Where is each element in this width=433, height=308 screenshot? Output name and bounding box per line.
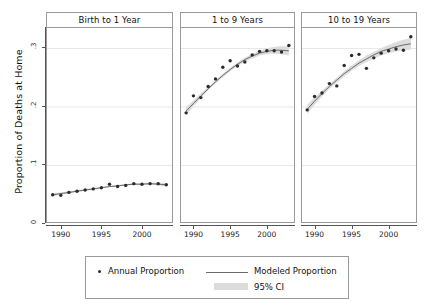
facet-panel-title: Birth to 1 Year [46,12,173,27]
facet-panel-2: 1 to 9 Years [180,12,295,223]
facet-plot-area [301,27,417,223]
x-tick-mark [230,226,231,229]
data-point [380,51,383,54]
facet-plot-area [46,27,173,223]
data-point [165,183,168,186]
data-point [184,111,187,114]
x-tick-label: 1990 [176,230,210,239]
facet-series-svg [181,28,294,222]
x-tick-mark [267,226,268,229]
data-point [124,184,127,187]
data-point [357,53,360,56]
data-point [320,91,323,94]
legend-marker-dot-icon [98,270,101,273]
x-tick-label: 1990 [298,230,332,239]
data-point [243,60,246,63]
facet-series-svg [302,28,416,222]
x-axis-spine [46,225,173,226]
data-point [199,96,202,99]
data-point [59,194,62,197]
facet-panel-title: 1 to 9 Years [180,12,295,27]
facet-panel-1: Birth to 1 Year [46,12,173,223]
data-point [265,49,268,52]
data-point [83,188,86,191]
data-point [313,95,316,98]
data-point [258,50,261,53]
data-point [387,49,390,52]
data-point [272,49,275,52]
data-point [67,191,70,194]
data-point [92,187,95,190]
data-point [335,84,338,87]
ci-band [186,46,289,115]
data-point [116,185,119,188]
data-point [132,182,135,185]
data-point [328,82,331,85]
data-point [206,85,209,88]
data-point [250,53,253,56]
y-tick-label: 0 [30,212,38,232]
x-tick-mark [101,226,102,229]
x-tick-mark [315,226,316,229]
data-point [350,54,353,57]
data-point [287,44,290,47]
x-axis-spine [180,225,295,226]
data-point [214,77,217,80]
y-tick-label: .3 [30,36,38,56]
legend-marker-band-icon [214,283,248,290]
x-tick-label: 1995 [213,230,247,239]
modeled-proportion-line [186,50,289,111]
x-axis-spine [301,225,417,226]
data-point [365,67,368,70]
data-point [100,186,103,189]
x-tick-label: 1995 [335,230,369,239]
legend-marker-line-icon [206,272,248,273]
x-tick-label: 2000 [125,230,159,239]
data-point [148,182,151,185]
x-tick-label: 1990 [44,230,78,239]
chart-figure: Proportion of Deaths at Home 0.1.2.3 Bir… [0,0,433,308]
facet-panel-3: 10 to 19 Years [301,12,417,223]
data-point [228,59,231,62]
data-point [108,183,111,186]
x-tick-label: 1995 [84,230,118,239]
x-tick-mark [142,226,143,229]
facet-panel-title: 10 to 19 Years [301,12,417,27]
x-tick-mark [352,226,353,229]
data-point [192,94,195,97]
data-point [157,182,160,185]
data-point [372,56,375,59]
data-point [394,47,397,50]
chart-legend: Annual Proportion Modeled Proportion 95%… [85,256,349,299]
legend-label-annual-proportion: Annual Proportion [108,266,184,276]
x-tick-mark [389,226,390,229]
data-point [51,193,54,196]
data-point [75,190,78,193]
legend-label-95-ci: 95% CI [254,282,284,292]
y-axis-title: Proportion of Deaths at Home [13,22,24,222]
y-tick-label: .2 [30,95,38,115]
data-point [236,64,239,67]
data-point [305,108,308,111]
data-point [342,64,345,67]
x-tick-mark [193,226,194,229]
facet-series-svg [47,28,172,222]
legend-label-modeled-proportion: Modeled Proportion [254,266,337,276]
x-tick-mark [61,226,62,229]
x-tick-label: 2000 [372,230,406,239]
y-tick-label: .1 [30,153,38,173]
data-point [402,49,405,52]
data-point [409,35,412,38]
data-point [140,183,143,186]
x-tick-label: 2000 [250,230,284,239]
y-tick-mark [42,223,45,224]
facet-plot-area [180,27,295,223]
data-point [221,66,224,69]
data-point [280,50,283,53]
